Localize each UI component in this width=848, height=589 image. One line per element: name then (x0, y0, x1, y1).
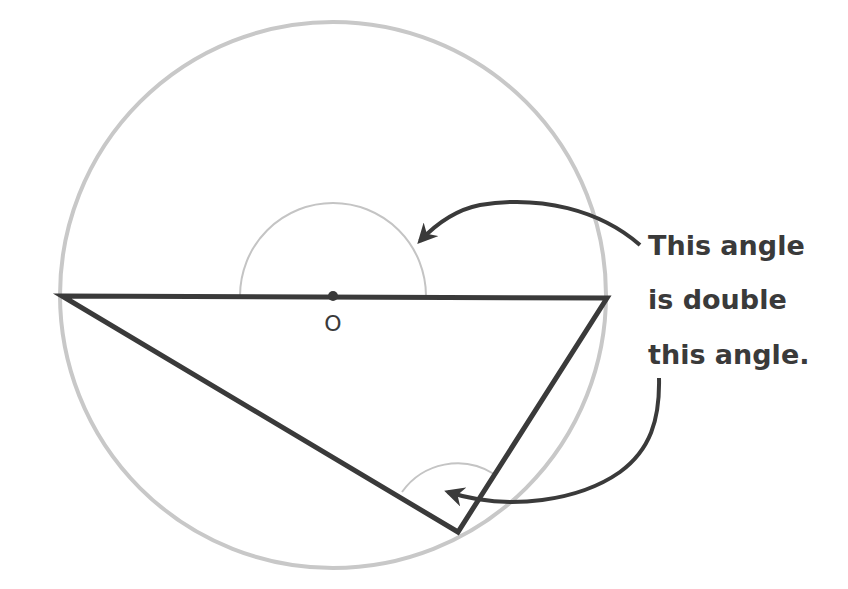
inscribed-angle-diagram: O This angle is double this angle. (0, 0, 848, 589)
central-angle-arc (240, 203, 426, 296)
center-point-label: O (324, 311, 341, 336)
annotation-line-1: This angle (648, 230, 805, 261)
inscribed-angle-arc (402, 463, 494, 492)
center-point-dot (328, 291, 338, 301)
annotation-line-2: is double (648, 284, 787, 315)
arrow-to-central-angle (420, 202, 640, 245)
annotation-line-3: this angle. (648, 339, 809, 370)
arrow-to-inscribed-angle (448, 378, 659, 502)
